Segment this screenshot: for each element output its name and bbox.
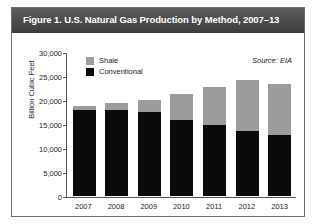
x-tick-label: 2007 bbox=[72, 202, 95, 216]
y-tick-label: 25,000 bbox=[26, 73, 62, 82]
page-title: Figure 1. U.S. Natural Gas Production by… bbox=[23, 14, 279, 25]
x-axis-tick-labels: 2007200820092010201120122013 bbox=[67, 202, 296, 216]
x-tick-label: 2011 bbox=[203, 202, 226, 216]
bar-segment-shale bbox=[170, 94, 193, 120]
bar-segment-shale bbox=[138, 100, 161, 112]
figure-title-band: Figure 1. U.S. Natural Gas Production by… bbox=[12, 8, 304, 33]
chart-body: Billion Cubic Feet 30,000 25,000 20,000 … bbox=[12, 33, 304, 218]
bar-segment-conventional bbox=[268, 135, 291, 196]
bar-column bbox=[170, 53, 193, 196]
x-tick-label: 2013 bbox=[268, 202, 291, 216]
bar-segment-conventional bbox=[236, 131, 259, 196]
bar-segment-shale bbox=[236, 80, 259, 131]
bar-segment-shale bbox=[105, 103, 128, 110]
figure-container: Figure 1. U.S. Natural Gas Production by… bbox=[11, 7, 305, 217]
bar-column bbox=[73, 53, 96, 196]
y-tick-label: 10,000 bbox=[26, 145, 62, 154]
plot-area bbox=[66, 53, 296, 198]
x-tick-label: 2012 bbox=[235, 202, 258, 216]
bar-series-container bbox=[68, 53, 296, 196]
bar-segment-shale bbox=[203, 87, 226, 125]
bar-segment-conventional bbox=[73, 110, 96, 196]
bar-column bbox=[105, 53, 128, 196]
y-axis-tick-labels: 30,000 25,000 20,000 15,000 10,000 5,000… bbox=[26, 33, 62, 218]
bar-segment-conventional bbox=[170, 120, 193, 196]
bar-segment-conventional bbox=[138, 112, 161, 196]
y-tick-label: 5,000 bbox=[26, 169, 62, 178]
bar-column bbox=[236, 53, 259, 196]
bar-segment-conventional bbox=[105, 110, 128, 196]
x-tick-label: 2009 bbox=[137, 202, 160, 216]
bar-column bbox=[268, 53, 291, 196]
y-tick-label: 0 bbox=[26, 193, 62, 202]
x-tick-label: 2010 bbox=[170, 202, 193, 216]
bar-column bbox=[203, 53, 226, 196]
y-tick-label: 15,000 bbox=[26, 121, 62, 130]
y-tick-label: 20,000 bbox=[26, 97, 62, 106]
x-tick-label: 2008 bbox=[105, 202, 128, 216]
bar-segment-shale bbox=[268, 84, 291, 135]
bar-column bbox=[138, 53, 161, 196]
bar-segment-conventional bbox=[203, 125, 226, 197]
y-tick-label: 30,000 bbox=[26, 49, 62, 58]
